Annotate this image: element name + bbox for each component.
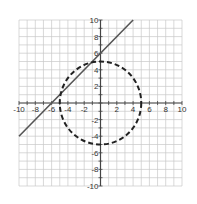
y-tick-label: -8 bbox=[91, 165, 99, 174]
x-tick-label: -2 bbox=[81, 105, 89, 114]
y-tick-label: -4 bbox=[91, 132, 99, 141]
x-tick-label: 6 bbox=[147, 105, 152, 114]
x-tick-label: 4 bbox=[131, 105, 136, 114]
x-tick-label: 8 bbox=[163, 105, 168, 114]
x-tick-label: -4 bbox=[64, 105, 72, 114]
x-tick-label: -10 bbox=[13, 105, 25, 114]
x-tick-label: -8 bbox=[32, 105, 40, 114]
x-tick-label: 2 bbox=[115, 105, 120, 114]
y-tick-label: 10 bbox=[90, 16, 99, 25]
y-tick-label: -6 bbox=[91, 149, 99, 158]
series bbox=[19, 20, 141, 145]
y-tick-label: 4 bbox=[94, 66, 99, 75]
y-tick-label: -10 bbox=[87, 182, 99, 191]
x-tick-label: 10 bbox=[178, 105, 187, 114]
y-tick-label: 8 bbox=[94, 33, 99, 42]
coordinate-plane: -10-8-6-4-2246810108642-2-4-6-8-10 bbox=[0, 0, 197, 204]
y-tick-label: -2 bbox=[91, 116, 99, 125]
y-tick-label: 2 bbox=[94, 82, 99, 91]
